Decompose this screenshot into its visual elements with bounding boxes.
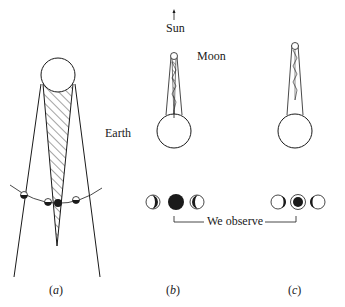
moon-position-3-eclipsed bbox=[54, 199, 62, 207]
earth-label: Earth bbox=[105, 127, 131, 139]
moon-circle-c bbox=[292, 43, 299, 50]
moon-position-2 bbox=[45, 199, 52, 206]
phase-icon-c1 bbox=[271, 195, 286, 209]
phase-icon-b1 bbox=[146, 195, 160, 209]
phase-icon-c2 bbox=[291, 195, 306, 210]
umbra-cone bbox=[43, 84, 73, 246]
panel-caption-c: (c) bbox=[288, 284, 301, 296]
moon-circle-b bbox=[171, 53, 178, 60]
observed-phases-b bbox=[146, 194, 204, 210]
we-observe-label: We observe bbox=[207, 215, 263, 227]
phase-icon-b3 bbox=[190, 195, 204, 209]
moon-label: Moon bbox=[197, 50, 226, 62]
moon-position-4 bbox=[73, 197, 80, 204]
panel-caption-b: (b) bbox=[166, 284, 180, 296]
sun-arrowhead-icon bbox=[173, 9, 176, 13]
panel-caption-a: (a) bbox=[49, 284, 63, 296]
earth-circle-c bbox=[278, 114, 312, 148]
phase-icon-c3 bbox=[310, 195, 325, 209]
panel-a-diagram bbox=[10, 58, 102, 277]
moon-position-1 bbox=[21, 192, 28, 199]
penumbra-line-right bbox=[75, 84, 100, 277]
panel-c-diagram bbox=[278, 43, 312, 149]
observed-phases-c bbox=[271, 195, 325, 210]
earth-circle-b bbox=[157, 114, 191, 148]
earth-circle-a bbox=[41, 58, 75, 92]
phase-icon-b2 bbox=[168, 194, 184, 210]
diagram-canvas bbox=[0, 0, 345, 307]
sun-label: Sun bbox=[166, 22, 185, 34]
penumbra-line-left bbox=[14, 84, 41, 277]
